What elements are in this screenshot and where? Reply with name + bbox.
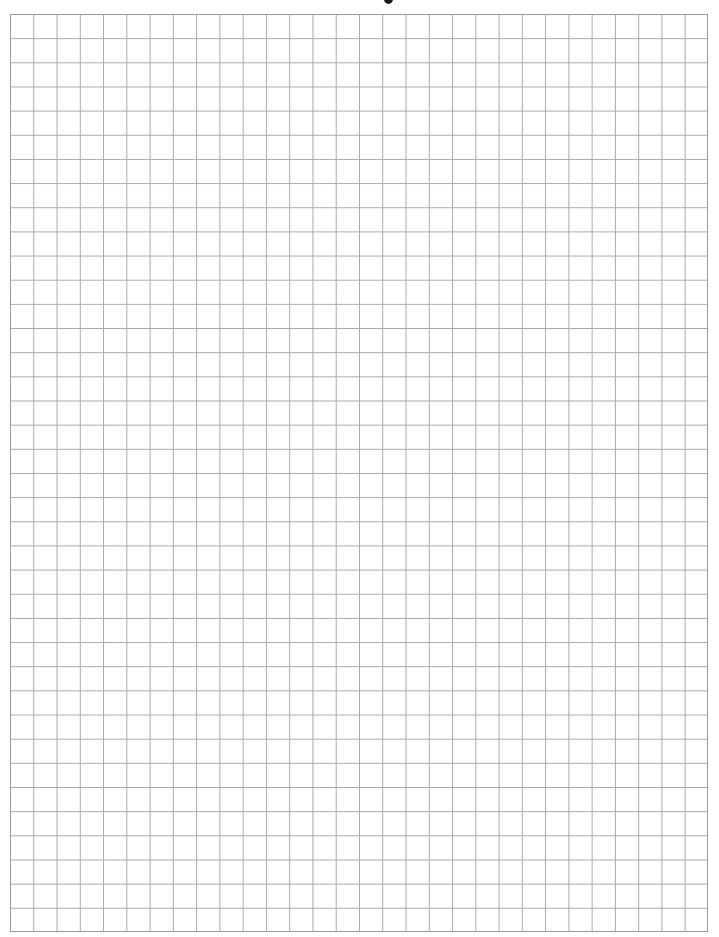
cut-off-title-glyph xyxy=(384,0,393,4)
graph-paper-grid xyxy=(10,14,708,932)
paper-speck xyxy=(103,873,104,874)
